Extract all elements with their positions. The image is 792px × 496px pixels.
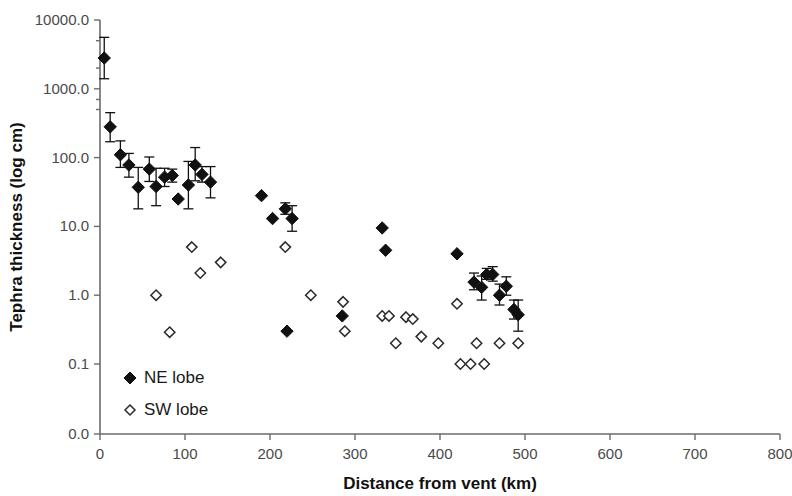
data-point [280,242,290,252]
data-point [500,280,512,292]
y-tick-label: 1000.0 [43,80,89,97]
data-point [196,168,208,180]
data-point [391,338,401,348]
data-point [195,268,205,278]
x-tick-label: 800 [767,445,792,462]
x-tick-label: 400 [427,445,452,462]
data-point [513,338,523,348]
data-point [452,299,462,309]
chart-legend: NE lobeSW lobe [124,368,208,419]
data-point [471,338,481,348]
data-point [123,159,135,171]
y-tick-label: 10.0 [60,217,89,234]
y-tick-label: 10000.0 [35,11,89,28]
x-tick-label: 500 [512,445,537,462]
data-point [479,359,489,369]
data-point [165,327,175,337]
data-point [306,290,316,300]
data-point [266,212,278,224]
data-point [187,242,197,252]
data-series-layer [98,37,524,369]
x-tick-label: 700 [682,445,707,462]
data-point [451,248,463,260]
data-point [379,244,391,256]
data-point [336,310,348,322]
data-point [172,193,184,205]
legend-label-sw-lobe: SW lobe [144,400,208,419]
y-axis-ticks: 10000.01000.0100.010.01.00.10.0 [35,11,100,442]
x-tick-label: 300 [342,445,367,462]
data-point [132,181,144,193]
y-tick-label: 100.0 [51,149,89,166]
data-point [455,359,465,369]
data-point [281,325,293,337]
data-point [433,338,443,348]
data-point [114,149,126,161]
y-axis-title: Tephra thickness (log cm) [7,122,26,331]
data-point [340,326,350,336]
y-tick-label: 1.0 [68,286,89,303]
data-point [189,159,201,171]
data-point [255,189,267,201]
x-tick-label: 100 [172,445,197,462]
x-tick-label: 200 [257,445,282,462]
data-point [384,311,394,321]
plot-area: 10000.01000.0100.010.01.00.10.0 01002003… [0,0,792,496]
tephra-thickness-chart: 10000.01000.0100.010.01.00.10.0 01002003… [0,0,792,496]
data-point [416,331,426,341]
y-tick-label: 0.0 [68,425,89,442]
legend-label-ne-lobe: NE lobe [144,368,204,387]
data-point [204,176,216,188]
y-tick-label: 0.1 [68,355,89,372]
x-tick-label: 0 [96,445,104,462]
data-point [104,121,116,133]
data-point [279,203,291,215]
x-axis-title: Distance from vent (km) [343,474,537,493]
data-point [151,290,161,300]
data-point [465,359,475,369]
data-point [376,222,388,234]
data-point [143,163,155,175]
x-axis-ticks: 0100200300400500600700800 [96,434,792,462]
legend-marker-sw-lobe [125,405,135,415]
data-point [216,257,226,267]
series-sw-lobe [151,242,524,369]
data-point [494,338,504,348]
legend-marker-ne-lobe [124,372,136,384]
x-tick-label: 600 [597,445,622,462]
data-point [338,297,348,307]
